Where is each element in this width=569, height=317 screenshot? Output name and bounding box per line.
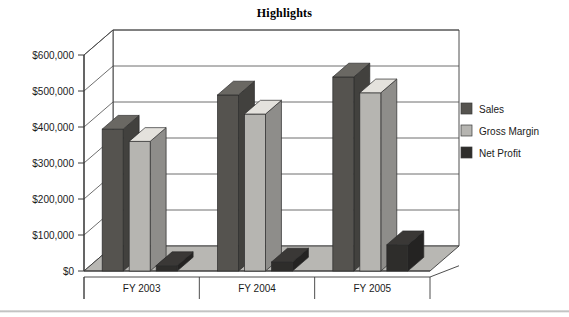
legend-swatch: [461, 125, 472, 136]
bar-chart-plot: $0$100,000$200,000$300,000$400,000$500,0…: [0, 0, 569, 317]
footer-divider: [0, 310, 569, 313]
bar-front-face: [360, 93, 381, 271]
legend-item[interactable]: Gross Margin: [461, 125, 539, 137]
legend-swatch: [461, 103, 472, 114]
bar-front-face: [102, 129, 123, 271]
bar-front-face: [218, 95, 239, 271]
y-axis-tick-label: $400,000: [32, 122, 74, 133]
legend-swatch: [461, 147, 472, 158]
bar-front-face: [245, 114, 266, 271]
bar-side-face: [150, 128, 166, 271]
bar-front-face: [387, 245, 408, 271]
y-axis-tick-label: $300,000: [32, 158, 74, 169]
bar-front-face: [333, 77, 354, 271]
x-axis-category-label: FY 2003: [123, 283, 161, 294]
y-axis-tick-label: $100,000: [32, 230, 74, 241]
bar-side-face: [266, 100, 282, 271]
legend-item[interactable]: Net Profit: [461, 147, 521, 159]
legend-label: Gross Margin: [479, 126, 539, 137]
y-axis-tick-label: $0: [63, 266, 75, 277]
y-axis-tick-label: $500,000: [32, 86, 74, 97]
bar-3d: [129, 128, 166, 271]
legend-label: Sales: [479, 104, 504, 115]
y-axis-tick-label: $600,000: [32, 50, 74, 61]
chart-container: Highlights $0$100,000$200,000$300,000$40…: [0, 0, 569, 317]
x-axis-category-label: FY 2005: [354, 283, 392, 294]
x-axis-category-label: FY 2004: [238, 283, 276, 294]
bar-front-face: [272, 262, 293, 271]
bar-front-face: [156, 266, 177, 271]
bar-front-face: [129, 141, 150, 271]
legend-label: Net Profit: [479, 148, 521, 159]
legend-item[interactable]: Sales: [461, 103, 504, 115]
bar-3d: [245, 100, 282, 271]
y-axis-tick-label: $200,000: [32, 194, 74, 205]
